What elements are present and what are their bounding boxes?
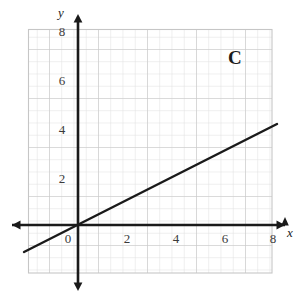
y-axis-arrow-down: [74, 283, 83, 292]
y-tick-label-8: 8: [54, 25, 70, 38]
y-tick-label-6: 6: [54, 74, 70, 87]
y-axis-arrow-up: [74, 14, 83, 23]
plot-tag-c: C: [228, 48, 242, 67]
x-tick-label-6: 6: [217, 232, 233, 245]
x-axis-label: x: [287, 226, 293, 239]
x-tick-label-0: 0: [60, 232, 76, 245]
x-axis-arrow-left: [12, 221, 21, 230]
y-tick-label-4: 4: [54, 123, 70, 136]
x-tick-label-8: 8: [265, 232, 281, 245]
x-axis-arrow-right: [277, 221, 286, 230]
y-axis-label: y: [58, 6, 64, 19]
x-tick-label-4: 4: [168, 232, 184, 245]
x-tick-label-2: 2: [119, 232, 135, 245]
coordinate-plane-figure: [0, 0, 298, 300]
y-tick-label-2: 2: [54, 172, 70, 185]
